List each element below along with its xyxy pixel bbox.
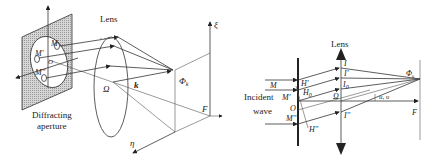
H0-label: H0 bbox=[302, 88, 312, 98]
point-M-prime: M' bbox=[34, 49, 44, 58]
lens-label: Lens bbox=[331, 39, 349, 49]
M-double-prime-label: M'' bbox=[285, 114, 296, 123]
diffraction-diagram: M M' M'' O Lens Ω k ξ η Φk F Diffr bbox=[0, 0, 436, 167]
wave-label: wave bbox=[253, 106, 272, 116]
M-label: M bbox=[269, 81, 278, 90]
I-double-prime-label: I'' bbox=[343, 111, 350, 120]
phi-k-label: Φk bbox=[406, 69, 415, 79]
omega-label: Ω bbox=[103, 84, 110, 94]
lens-label: Lens bbox=[100, 14, 118, 24]
omega-label: Ω bbox=[333, 92, 339, 101]
H-prime-label: H' bbox=[300, 79, 309, 88]
incident-label: Incident bbox=[244, 92, 274, 102]
right-figure: Lens M Incident M' wave O M'' H' H0 H'' bbox=[244, 39, 420, 155]
I-prime-label: I' bbox=[343, 69, 349, 78]
point-M-double-prime: M'' bbox=[34, 68, 45, 77]
aperture-label-line2: aperture bbox=[37, 121, 66, 131]
aperture-label-line1: Diffracting bbox=[32, 110, 72, 120]
lens bbox=[94, 37, 128, 137]
point-M: M bbox=[50, 39, 59, 48]
F-label: F bbox=[411, 108, 417, 117]
M-prime-label: M' bbox=[281, 93, 291, 102]
k-vector-label: k bbox=[134, 80, 139, 90]
phi-k-label: Φk bbox=[179, 76, 189, 87]
I-label: I bbox=[343, 59, 347, 68]
O-label: O bbox=[290, 104, 296, 113]
F-label: F bbox=[201, 104, 208, 114]
xi-label: ξ bbox=[214, 20, 218, 30]
point-O: O bbox=[48, 58, 53, 66]
angles-label: u, υ bbox=[379, 93, 389, 101]
I0-label: I0 bbox=[342, 80, 349, 90]
left-figure: M M' M'' O Lens Ω k ξ η Φk F Diffr bbox=[16, 6, 222, 153]
H-double-prime-label: H'' bbox=[308, 125, 318, 134]
eta-label: η bbox=[130, 138, 135, 148]
